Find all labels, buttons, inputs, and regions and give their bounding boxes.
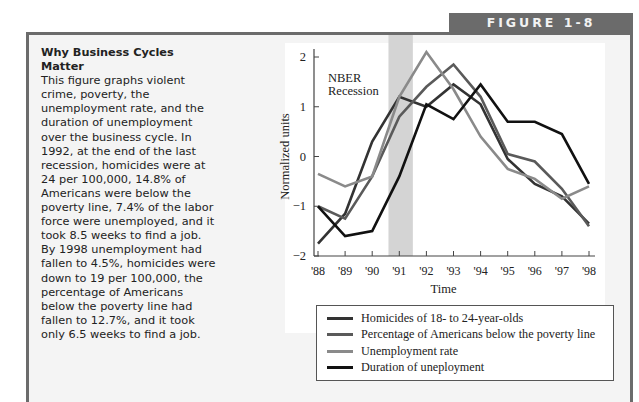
x-tick-label: '94 bbox=[474, 264, 488, 278]
series-line-1 bbox=[318, 84, 589, 243]
y-axis-label: Normalized units bbox=[278, 113, 292, 200]
y-tick-label: −2 bbox=[293, 249, 306, 263]
legend-item: Unemployment rate bbox=[327, 343, 613, 360]
legend-swatch bbox=[327, 333, 353, 336]
x-tick-label: '89 bbox=[338, 264, 352, 278]
x-tick-label: '98 bbox=[582, 264, 596, 278]
x-tick-label: '88 bbox=[311, 264, 325, 278]
legend-item: Percentage of Americans below the povert… bbox=[327, 327, 613, 344]
legend-item: Homicides of 18- to 24-year-olds bbox=[327, 310, 613, 327]
y-tick-label: −1 bbox=[293, 199, 306, 213]
legend-item: Duration of uneployment bbox=[327, 360, 613, 377]
x-tick-label: '90 bbox=[365, 264, 379, 278]
recession-shading bbox=[388, 35, 412, 256]
annotation-line-2: Recession bbox=[328, 84, 379, 98]
legend-label: Percentage of Americans below the povert… bbox=[361, 327, 595, 342]
chart-legend: Homicides of 18- to 24-year-oldsPercenta… bbox=[316, 305, 614, 381]
legend-swatch bbox=[327, 317, 353, 320]
y-tick-label: 0 bbox=[300, 150, 306, 164]
x-tick-label: '97 bbox=[555, 264, 569, 278]
y-tick-label: 1 bbox=[300, 100, 306, 114]
legend-label: Unemployment rate bbox=[361, 344, 458, 359]
x-axis-label: Time bbox=[431, 282, 457, 296]
x-tick-label: '95 bbox=[501, 264, 515, 278]
x-tick-label: '92 bbox=[419, 264, 433, 278]
y-tick-label: 2 bbox=[300, 50, 306, 64]
legend-label: Homicides of 18- to 24-year-olds bbox=[361, 311, 523, 326]
x-tick-label: '96 bbox=[528, 264, 542, 278]
legend-label: Duration of uneployment bbox=[361, 360, 484, 375]
annotation-line-1: NBER bbox=[328, 71, 362, 85]
legend-swatch bbox=[327, 366, 353, 369]
series-line-4 bbox=[318, 84, 589, 236]
x-tick-label: '91 bbox=[392, 264, 406, 278]
x-tick-label: '93 bbox=[446, 264, 460, 278]
legend-swatch bbox=[327, 350, 353, 353]
